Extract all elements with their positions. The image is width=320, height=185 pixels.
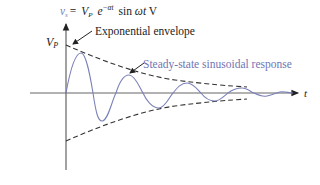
envelope-lower xyxy=(66,99,247,141)
envelope-annotation: Exponential envelope xyxy=(95,25,195,38)
response-annotation: Steady-state sinusoidal response xyxy=(143,58,292,71)
y-axis-label: VP xyxy=(46,35,58,50)
damped-sine-diagram: vs= VP e−αt sin ωt V VP t Exponential en… xyxy=(0,0,320,185)
equation: vs= VP e−αt sin ωt V xyxy=(60,0,158,19)
envelope-pointer xyxy=(73,31,92,44)
x-axis-label: t xyxy=(304,87,308,99)
